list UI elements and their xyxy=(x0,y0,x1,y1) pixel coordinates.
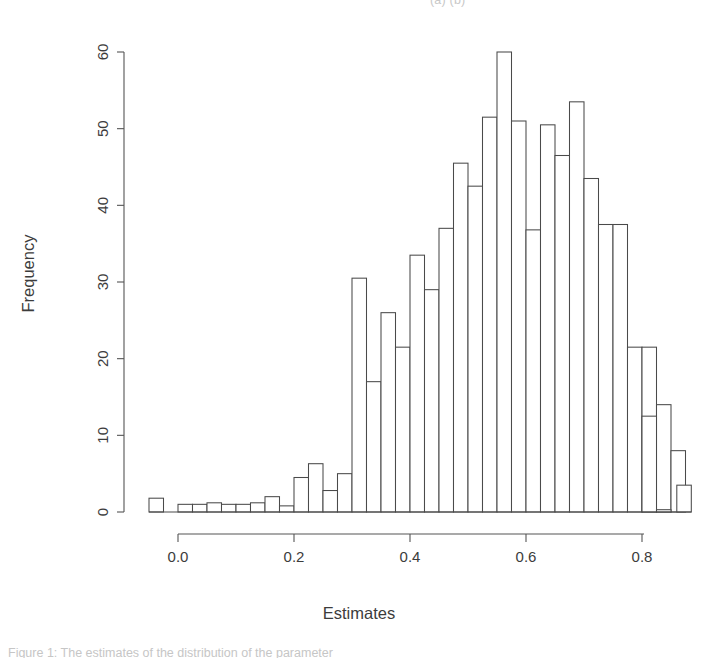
histogram-bar xyxy=(555,156,570,513)
x-tick-label: 0.4 xyxy=(400,548,421,565)
histogram-bar xyxy=(497,52,512,512)
x-tick-label: 0.8 xyxy=(632,548,653,565)
y-axis-label: Frequency xyxy=(19,214,38,334)
y-tick-label: 30 xyxy=(94,274,111,291)
histogram-bar xyxy=(410,255,425,512)
histogram-bar xyxy=(309,464,324,512)
histogram-bar xyxy=(642,416,657,512)
histogram-bar xyxy=(178,504,193,512)
x-tick-label: 0.0 xyxy=(168,548,189,565)
histogram-bar xyxy=(483,117,498,512)
histogram-bar xyxy=(468,186,483,512)
histogram-bar xyxy=(338,474,353,512)
histogram-bar xyxy=(294,478,309,513)
histogram-bar xyxy=(367,382,382,512)
histogram-bar xyxy=(236,504,251,512)
x-axis-label: Estimates xyxy=(0,604,718,623)
histogram-bar xyxy=(193,504,208,512)
histogram-bar xyxy=(251,503,266,512)
histogram-bar xyxy=(677,485,692,512)
histogram-bar xyxy=(425,290,440,512)
y-tick-label: 50 xyxy=(94,120,111,137)
histogram-bar xyxy=(265,497,280,512)
histogram-bar xyxy=(381,313,396,512)
x-tick-label: 0.6 xyxy=(516,548,537,565)
y-tick-label: 40 xyxy=(94,197,111,214)
x-tick-label: 0.2 xyxy=(284,548,305,565)
y-axis-label-wrap: Frequency xyxy=(0,0,40,560)
histogram-bar xyxy=(396,347,411,512)
y-tick-group: 0102030405060 xyxy=(94,44,124,517)
y-tick-label: 60 xyxy=(94,44,111,61)
x-tick-group: 0.00.20.40.60.8 xyxy=(168,534,653,565)
histogram-bar xyxy=(512,121,527,512)
y-tick-label: 0 xyxy=(94,508,111,516)
histogram-bar xyxy=(222,504,237,512)
histogram-bar xyxy=(570,102,585,512)
y-tick-label: 20 xyxy=(94,350,111,367)
histogram-bar xyxy=(149,498,164,512)
histogram-bar xyxy=(352,278,367,512)
histogram-bar xyxy=(628,347,643,512)
histogram-bar xyxy=(323,491,338,512)
histogram-bars xyxy=(149,52,691,512)
histogram-bar xyxy=(599,225,614,513)
bottom-cropped-caption: Figure 1: The estimates of the distribut… xyxy=(8,646,708,658)
histogram-bar xyxy=(526,230,541,512)
histogram-bar xyxy=(207,503,222,512)
histogram-bar xyxy=(657,405,672,512)
histogram-bar xyxy=(613,225,628,513)
histogram-bar xyxy=(439,228,454,512)
histogram-bar xyxy=(584,179,599,513)
histogram-bar xyxy=(541,125,556,512)
histogram-bar xyxy=(454,163,469,512)
histogram-bar xyxy=(280,506,295,512)
y-tick-label: 10 xyxy=(94,427,111,444)
